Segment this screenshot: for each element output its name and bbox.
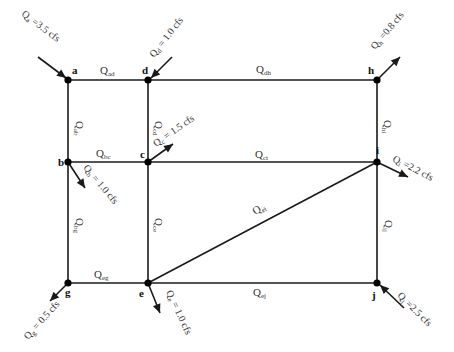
arrowhead-icon	[56, 69, 66, 78]
flow-label-b: Qb = 1.0 cfs	[80, 162, 121, 207]
arrowhead-icon	[77, 178, 85, 188]
node-label-e: e	[139, 287, 144, 299]
nodes-layer	[64, 76, 380, 286]
node-h	[373, 76, 380, 83]
flow-label-e: Qe = 1.0 cfs	[162, 288, 194, 337]
node-label-h: h	[368, 64, 374, 76]
pipe-label-ej: Qej	[253, 286, 266, 300]
node-c	[144, 158, 151, 165]
pipe-label-ad: Qad	[100, 64, 115, 78]
flow-label-g: Qg = 0.5 cfs	[21, 298, 63, 342]
flow-label-d: Qd = 1.0 cfs	[147, 15, 187, 61]
node-i	[373, 158, 380, 165]
flow-label-i: Qi =2.2 cfs	[390, 153, 435, 185]
node-j	[373, 279, 380, 286]
pipe-label-dh: Qdh	[256, 63, 271, 77]
pipe-label-ci: Qci	[255, 148, 268, 162]
node-label-i: i	[376, 144, 379, 156]
pipe-label-ce: Qce	[151, 218, 165, 232]
pipe-label-ab: Qab	[72, 121, 86, 136]
pipe-ei	[148, 162, 377, 283]
flow-label-h: Qh =0.8 cfs	[368, 9, 407, 52]
node-label-b: b	[58, 156, 64, 168]
pipe-network-diagram: QadQdhQabQcdQhiQbcQciQbgQceQeiQijQegQejQ…	[0, 0, 454, 352]
node-label-d: d	[142, 64, 148, 76]
pipes-layer	[68, 80, 377, 283]
node-label-g: g	[65, 286, 71, 298]
pipe-label-bg: Qbg	[72, 218, 86, 233]
flow-label-a: Qa =3.5 cfs	[19, 8, 63, 46]
node-a	[64, 76, 71, 83]
pipe-label-eg: Qeg	[94, 268, 109, 282]
node-b	[64, 158, 71, 165]
node-e	[144, 279, 151, 286]
labels-layer: QadQdhQabQcdQhiQbcQciQbgQceQeiQijQegQejQ…	[19, 8, 436, 343]
pipe-label-hi: Qhi	[380, 120, 394, 133]
flow-label-j: Qj =2.5 cfs	[394, 290, 434, 330]
pipe-label-bc: Qbc	[96, 147, 111, 161]
pipe-label-ei: Qei	[250, 200, 268, 219]
node-label-c: c	[140, 148, 145, 160]
node-label-a: a	[72, 64, 78, 76]
node-d	[144, 76, 151, 83]
pipe-label-ij: Qij	[381, 220, 395, 232]
node-label-j: j	[371, 289, 376, 301]
